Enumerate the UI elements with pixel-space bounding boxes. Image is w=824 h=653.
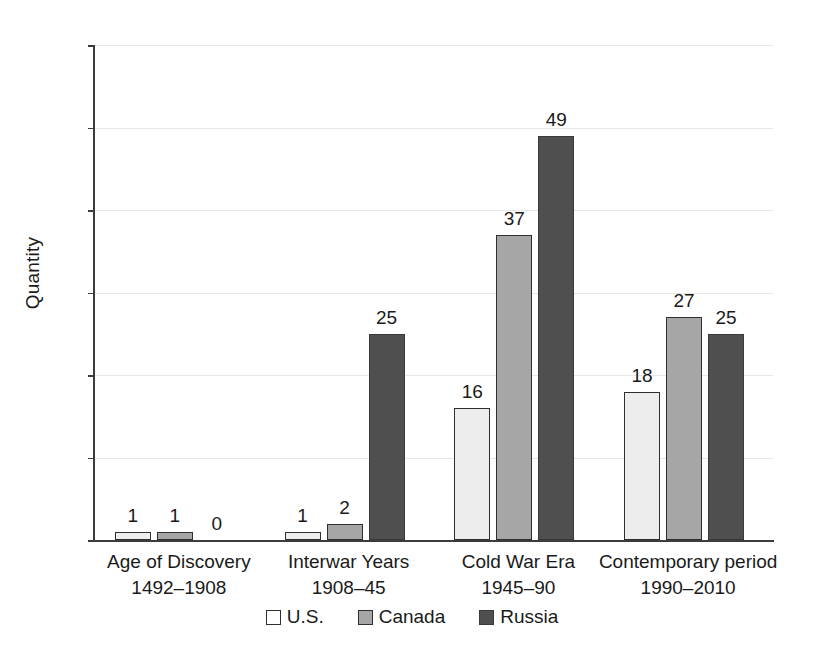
y-axis-line bbox=[93, 45, 95, 541]
legend-swatch-us-icon bbox=[266, 610, 281, 625]
bar-us-3 bbox=[454, 408, 490, 540]
category-period: 1492–1908 bbox=[82, 575, 276, 601]
legend: U.S.CanadaRussia bbox=[0, 606, 824, 628]
bar-russia-4 bbox=[708, 334, 744, 540]
category-name: Interwar Years bbox=[288, 551, 409, 572]
legend-swatch-canada-icon bbox=[358, 610, 373, 625]
bar-value-label: 25 bbox=[696, 308, 756, 327]
bar-russia-2 bbox=[369, 334, 405, 540]
x-axis-category-label: Interwar Years1908–45 bbox=[252, 549, 446, 600]
bar-value-label: 16 bbox=[442, 382, 502, 401]
bar-value-label: 25 bbox=[357, 308, 417, 327]
category-name: Cold War Era bbox=[462, 551, 575, 572]
bar-canada-4 bbox=[666, 317, 702, 540]
bar-canada-3 bbox=[496, 235, 532, 540]
x-axis-category-label: Cold War Era1945–90 bbox=[422, 549, 616, 600]
gridline bbox=[94, 210, 773, 211]
bar-value-label: 2 bbox=[315, 498, 375, 517]
legend-label: Canada bbox=[379, 606, 446, 628]
bar-value-label: 37 bbox=[484, 209, 544, 228]
x-axis-line bbox=[93, 540, 774, 542]
y-axis-title: Quantity bbox=[22, 193, 44, 353]
legend-item-russia[interactable]: Russia bbox=[479, 606, 558, 628]
category-name: Contemporary period bbox=[599, 551, 777, 572]
legend-label: Russia bbox=[500, 606, 558, 628]
x-axis-category-label: Age of Discovery1492–1908 bbox=[82, 549, 276, 600]
bar-chart: Quantity 0102030405060 11012251637491827… bbox=[0, 0, 824, 653]
bar-us-2 bbox=[285, 532, 321, 540]
gridline bbox=[94, 128, 773, 129]
bar-value-label: 0 bbox=[187, 514, 247, 533]
bar-canada-2 bbox=[327, 524, 363, 541]
x-axis-category-label: Contemporary period1990–2010 bbox=[591, 549, 785, 600]
legend-item-us[interactable]: U.S. bbox=[266, 606, 324, 628]
category-period: 1945–90 bbox=[422, 575, 616, 601]
category-period: 1990–2010 bbox=[591, 575, 785, 601]
plot-area: 1101225163749182725 bbox=[94, 45, 773, 540]
bar-us-1 bbox=[115, 532, 151, 540]
category-period: 1908–45 bbox=[252, 575, 446, 601]
bar-us-4 bbox=[624, 392, 660, 541]
category-name: Age of Discovery bbox=[107, 551, 251, 572]
legend-swatch-russia-icon bbox=[479, 610, 494, 625]
bar-value-label: 18 bbox=[612, 366, 672, 385]
bar-value-label: 49 bbox=[526, 110, 586, 129]
bar-russia-3 bbox=[538, 136, 574, 540]
legend-item-canada[interactable]: Canada bbox=[358, 606, 446, 628]
legend-label: U.S. bbox=[287, 606, 324, 628]
gridline bbox=[94, 45, 773, 46]
